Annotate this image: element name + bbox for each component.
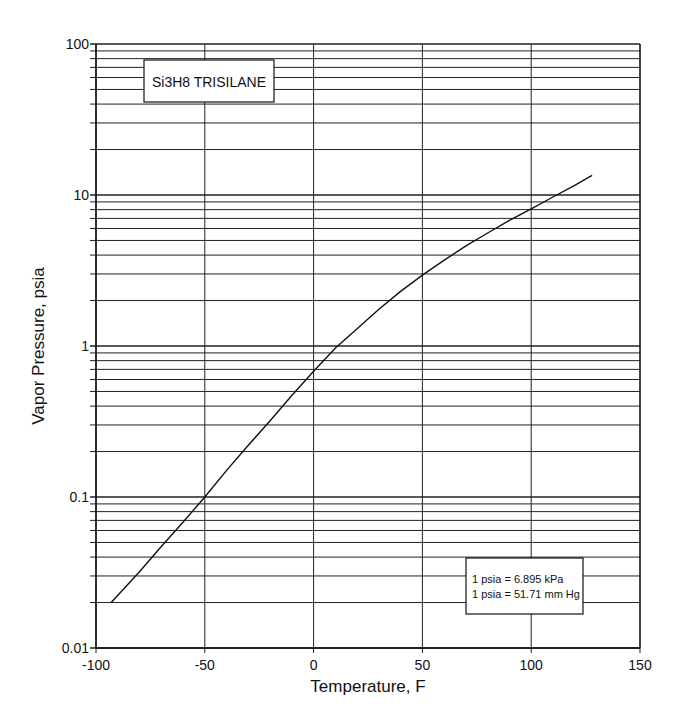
- conversion-note-mmhg: 1 psia = 51.71 mm Hg: [472, 588, 580, 600]
- y-tick-label: 0.1: [70, 489, 90, 505]
- x-tick-label: -100: [82, 657, 110, 673]
- chart-title: Si3H8 TRISILANE: [152, 74, 266, 90]
- x-tick-label: 150: [628, 657, 652, 673]
- title-box: Si3H8 TRISILANE: [144, 60, 274, 102]
- y-tick-labels: 0.010.1110100: [62, 36, 89, 656]
- conversion-note-box: 1 psia = 6.895 kPa 1 psia = 51.71 mm Hg: [466, 558, 583, 614]
- x-tick-label: 100: [520, 657, 544, 673]
- x-tick-labels: -100-50050100150: [82, 657, 652, 673]
- y-tick-label: 0.01: [62, 640, 89, 656]
- y-tick-label: 100: [66, 36, 90, 52]
- x-axis-title: Temperature, F: [310, 677, 425, 696]
- x-tick-label: 50: [415, 657, 431, 673]
- y-tick-label: 10: [73, 187, 89, 203]
- vapor-pressure-curve: [111, 175, 592, 602]
- y-axis-title: Vapor Pressure, psia: [29, 267, 48, 425]
- y-tick-label: 1: [81, 338, 89, 354]
- x-tick-label: 0: [310, 657, 318, 673]
- conversion-note-kpa: 1 psia = 6.895 kPa: [472, 573, 564, 585]
- x-tick-label: -50: [195, 657, 215, 673]
- vapor-pressure-chart: -100-50050100150 0.010.1110100 Si3H8 TRI…: [0, 0, 680, 726]
